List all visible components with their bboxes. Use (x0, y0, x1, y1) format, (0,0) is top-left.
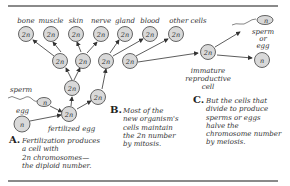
ploidy-text: 2n (120, 31, 129, 39)
ploidy-text: 2n (46, 31, 55, 39)
label-nerve: nerve (91, 17, 111, 25)
caption-line: cells maintain (123, 124, 179, 132)
ploidy-text: n (20, 121, 24, 129)
label-other-cells: other cells (169, 17, 207, 25)
ploidy-text: n (43, 99, 47, 107)
caption-line: divide to produce (206, 105, 281, 113)
label-bone: bone (17, 17, 34, 25)
caption-line: by mitosis. (123, 140, 179, 148)
caption-b-letter: B. (110, 106, 122, 114)
label-sperm: sperm (10, 86, 33, 94)
label-fertilized-egg: fertilized egg (47, 125, 96, 133)
ploidy-text: 2n (203, 49, 212, 57)
caption-line: Fertilization produces (22, 137, 100, 145)
caption-line: by meiosis. (206, 138, 281, 146)
caption-c-letter: C. (193, 96, 204, 104)
ploidy-text: 2n (145, 31, 154, 39)
label-gland: gland (115, 17, 135, 25)
caption-c: C. But the cells that divide to produce … (206, 97, 281, 147)
ploidy-text: n (264, 17, 268, 25)
sperm-tail (8, 97, 38, 102)
caption-line: halve the (206, 122, 281, 130)
ploidy-text: 2n (64, 111, 73, 119)
ploidy-text: 2n (21, 31, 30, 39)
ploidy-text: 2n (78, 58, 87, 66)
caption-line: Most of the (123, 107, 179, 115)
caption-b: B. Most of the new organism's cells main… (123, 107, 179, 148)
ploidy-text: 2n (71, 31, 80, 39)
ploidy-text: 2n (171, 31, 180, 39)
caption-a-letter: A. (9, 136, 20, 144)
caption-line: 2n chromosomes— (22, 154, 100, 162)
label-immature-2: reproductive (185, 75, 231, 83)
ploidy-text: 2n (96, 31, 105, 39)
ploidy-text: 2n (101, 58, 110, 66)
gamete-sperm-tail (232, 19, 256, 25)
caption-line: new organism's (123, 115, 179, 123)
caption-line: the 2n number (123, 132, 179, 140)
label-immature-1: immature (191, 67, 226, 75)
label-blood: blood (140, 17, 160, 25)
ploidy-text: 2n (125, 58, 134, 66)
label-immature-3: cell (202, 83, 215, 91)
caption-line: a cell with (22, 145, 100, 153)
label-gamete-3: egg (256, 42, 270, 50)
caption-a: A. Fertilization produces a cell with 2n… (22, 137, 100, 170)
ploidy-text: n (260, 57, 264, 65)
ploidy-text: 2n (93, 94, 102, 102)
label-skin: skin (69, 17, 84, 25)
caption-line: But the cells that (206, 97, 281, 105)
label-egg: egg (16, 107, 30, 115)
ploidy-text: 2n (67, 85, 76, 93)
caption-line: sperms or eggs (206, 114, 281, 122)
caption-line: the diploid number. (22, 162, 100, 170)
label-muscle: muscle (38, 17, 63, 25)
caption-line: chromosome number (206, 130, 281, 138)
ploidy-text: 2n (55, 58, 64, 66)
